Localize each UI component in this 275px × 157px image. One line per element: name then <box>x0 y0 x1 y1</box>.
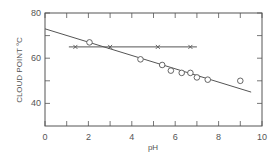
circle-marker <box>138 57 144 63</box>
y-axis-title: CLOUD POINT °C <box>15 37 24 103</box>
circle-marker <box>159 62 165 68</box>
x-tick-label: 6 <box>173 132 178 142</box>
circle-marker <box>194 75 200 81</box>
circle-marker <box>238 78 244 84</box>
circles-fit-line <box>45 29 251 92</box>
circle-marker <box>168 68 174 74</box>
x-tick-label: 8 <box>216 132 221 142</box>
y-tick-label: 60 <box>31 53 41 63</box>
circle-marker <box>179 70 185 76</box>
x-axis-title: pH <box>148 143 158 152</box>
x-tick-label: 2 <box>86 132 91 142</box>
plot-frame <box>45 13 262 126</box>
x-tick-label: 4 <box>129 132 134 142</box>
circle-marker <box>87 40 93 46</box>
fit-lines <box>45 29 251 92</box>
y-tick-label: 80 <box>31 8 41 18</box>
x-tick-label: 10 <box>257 132 267 142</box>
data-points <box>73 40 243 84</box>
cloud-point-chart: 0246810406080 pH CLOUD POINT °C <box>0 0 275 157</box>
circle-marker <box>205 77 211 83</box>
x-tick-label: 0 <box>42 132 47 142</box>
circle-marker <box>188 70 194 76</box>
y-tick-label: 40 <box>31 98 41 108</box>
axes: 0246810406080 <box>31 8 267 142</box>
